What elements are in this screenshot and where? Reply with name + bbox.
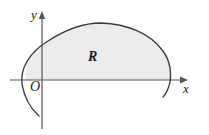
shaded-region-r: [26, 23, 170, 80]
y-axis-label: y: [31, 8, 37, 21]
origin-label: O: [30, 80, 40, 94]
x-axis-label: x: [183, 82, 189, 95]
region-label-r: R: [88, 50, 97, 64]
y-axis-arrowhead: [39, 11, 45, 19]
figure-container: y x O R: [0, 0, 209, 135]
